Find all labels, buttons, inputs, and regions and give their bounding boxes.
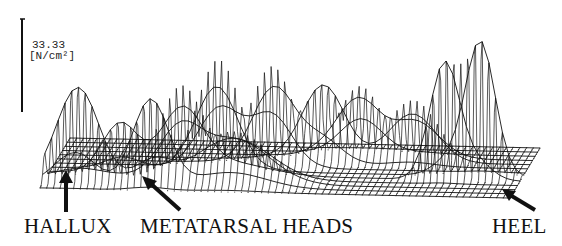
heel-label: HEEL	[492, 214, 546, 239]
scale-unit: [N/cm²]	[29, 51, 75, 61]
scale-value: 33.33	[32, 40, 65, 50]
wireframe-surface	[0, 0, 562, 246]
pressure-plot-figure: 33.33 [N/cm²] HALLUX METATARSAL HEADS HE…	[0, 0, 562, 246]
metatarsal-heads-label: METATARSAL HEADS	[140, 214, 353, 239]
hallux-arrow-icon	[59, 170, 73, 212]
heel-arrow-icon	[502, 189, 535, 210]
hallux-label: HALLUX	[24, 214, 112, 239]
